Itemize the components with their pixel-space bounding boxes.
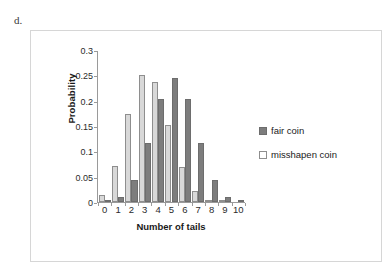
y-axis-tick-label: 0.1 [80, 148, 93, 157]
bar-fair-0 [105, 200, 111, 202]
legend-swatch-icon [259, 151, 267, 159]
x-axis-tick-label: 8 [209, 205, 214, 215]
legend-item-fair[interactable]: fair coin [259, 125, 377, 136]
legend-label: misshapen coin [271, 149, 337, 160]
y-axis-tick-mark [94, 152, 97, 153]
y-axis-tick-label: 0.05 [75, 173, 93, 182]
x-axis-tick-label: 9 [222, 205, 227, 215]
x-axis-tick-label: 0 [102, 205, 107, 215]
y-axis-tick-mark [94, 102, 97, 103]
bar-fair-9 [225, 197, 231, 202]
y-axis-tick-mark [94, 51, 97, 52]
bar-fair-5 [172, 78, 178, 202]
bar-fair-10 [238, 200, 244, 202]
bar-fair-4 [158, 99, 164, 202]
y-axis-tick-mark [94, 178, 97, 179]
figure-label: d. [14, 14, 22, 26]
chart-frame: Probability 00.050.10.150.20.250.3 01234… [30, 30, 382, 262]
bar-fair-1 [118, 197, 124, 202]
chart-legend: fair coinmisshapen coin [259, 125, 377, 173]
x-axis-title: Number of tails [81, 221, 261, 232]
x-axis-tick-label: 4 [155, 205, 160, 215]
legend-swatch-icon [259, 127, 267, 135]
legend-label: fair coin [271, 125, 304, 136]
x-axis-tick-label: 7 [196, 205, 201, 215]
legend-item-misshapen[interactable]: misshapen coin [259, 149, 377, 160]
y-axis-tick-label: 0.15 [75, 123, 93, 132]
y-axis-tick-mark [94, 127, 97, 128]
x-axis-tick-label: 6 [182, 205, 187, 215]
y-axis-tick-mark [94, 76, 97, 77]
y-axis-tick-label: 0.2 [80, 97, 93, 106]
x-axis-line [97, 202, 245, 203]
bar-fair-6 [185, 99, 191, 202]
bar-fair-3 [145, 143, 151, 202]
y-axis-tick-labels: 00.050.10.150.20.250.3 [59, 47, 93, 199]
y-axis-tick-label: 0.25 [75, 72, 93, 81]
x-axis-tick-label: 10 [233, 205, 244, 215]
bar-fair-2 [131, 180, 137, 202]
plot-area [97, 51, 245, 203]
x-axis-tick-label: 1 [115, 205, 120, 215]
x-axis-tick-label: 2 [129, 205, 134, 215]
x-axis-tick-labels: 012345678910 [97, 205, 247, 219]
bar-fair-8 [212, 180, 218, 202]
bars-layer [98, 51, 245, 202]
bar-fair-7 [198, 143, 204, 202]
x-axis-tick-label: 5 [169, 205, 174, 215]
x-axis-tick-label: 3 [142, 205, 147, 215]
y-axis-tick-label: 0 [88, 199, 93, 208]
y-axis-tick-mark [94, 203, 97, 204]
y-axis-tick-label: 0.3 [80, 47, 93, 56]
